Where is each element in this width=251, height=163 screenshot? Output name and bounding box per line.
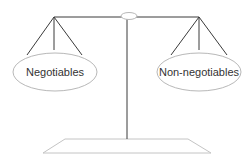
right-pan-strings (171, 17, 227, 55)
left-pan-label: Negotiables (26, 66, 85, 78)
left-pan: Negotiables (13, 53, 97, 91)
right-pan: Non-negotiables (157, 53, 241, 91)
right-pan-label: Non-negotiables (159, 66, 240, 78)
left-pan-strings (27, 17, 82, 55)
balance-scale-diagram: Negotiables Non-negotiables (0, 0, 251, 163)
scale-pivot (121, 13, 137, 20)
scale-base (43, 139, 211, 153)
